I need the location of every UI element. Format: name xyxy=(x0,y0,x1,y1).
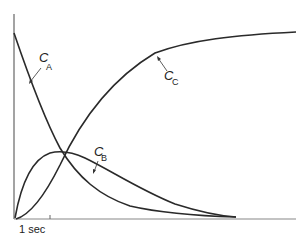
arrowhead-cb xyxy=(93,169,96,174)
label-cc-sub: C xyxy=(172,77,179,87)
curve-cb xyxy=(15,152,236,218)
curve-cc xyxy=(16,32,296,219)
kinetics-chart: 1 sec C A C B C C xyxy=(0,0,308,240)
label-cb-sub: B xyxy=(101,153,107,163)
arrow-ca xyxy=(30,68,41,82)
x-tick-label: 1 sec xyxy=(19,223,46,235)
label-ca-sub: A xyxy=(46,62,52,72)
arrowhead-cc xyxy=(157,56,161,61)
